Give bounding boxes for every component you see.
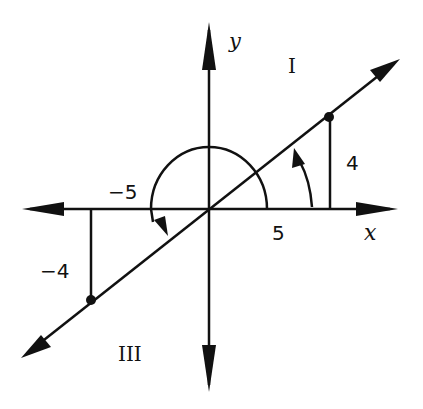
pos-x-label: 5 [272, 221, 285, 245]
x-axis-left-arrow-icon [22, 202, 64, 216]
coordinate-diagram: y x I III 5 4 −5 −4 [0, 0, 423, 409]
arc-small-arrow-icon [292, 148, 305, 168]
pos-y-label: 4 [346, 151, 359, 175]
point-quadrant-one [324, 112, 334, 122]
y-axis-up-arrow-icon [202, 22, 216, 70]
angle-arc-small [292, 148, 312, 207]
quadrant-one-label: I [288, 54, 296, 78]
arc-large-arrow-icon [154, 216, 168, 236]
y-axis-label: y [228, 29, 242, 53]
neg-y-label: −4 [40, 259, 69, 283]
neg-x-label: −5 [108, 180, 137, 204]
quadrant-three-label: III [118, 342, 142, 366]
point-quadrant-three [86, 295, 96, 305]
y-axis-down-arrow-icon [202, 345, 216, 392]
x-axis-label: x [364, 220, 377, 245]
x-axis-right-arrow-icon [356, 202, 398, 216]
